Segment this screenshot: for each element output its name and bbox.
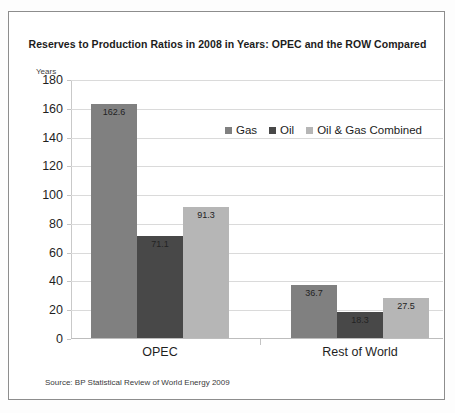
y-axis-tick-label: 0: [56, 332, 63, 346]
y-axis-tick-label: 100: [42, 188, 63, 202]
bar-oil-gas-combined-opec: 91.3: [183, 207, 229, 338]
y-axis-tick-label: 180: [42, 73, 63, 87]
bar-value-label: 36.7: [291, 288, 337, 298]
bar-value-label: 162.6: [91, 107, 137, 117]
legend-label: Oil: [280, 124, 294, 136]
y-axis-tick: [67, 253, 71, 254]
bar-value-label: 18.3: [337, 315, 383, 325]
legend-item-oil: Oil: [269, 124, 294, 136]
y-axis-tick-label: 160: [42, 102, 63, 116]
category-label-rest-of-world: Rest of World: [322, 345, 398, 359]
y-axis-tick: [67, 339, 71, 340]
y-axis-tick-label: 140: [42, 131, 63, 145]
y-axis-line: [71, 80, 72, 339]
bar-oil-gas-combined-rest-of-world: 27.5: [383, 298, 429, 338]
y-axis-tick: [67, 224, 71, 225]
bar-value-label: 27.5: [383, 301, 429, 311]
y-axis-tick-label: 80: [49, 217, 63, 231]
chart-title: Reserves to Production Ratios in 2008 in…: [9, 38, 446, 50]
chart-legend: GasOilOil & Gas Combined: [221, 122, 426, 138]
legend-label: Gas: [236, 124, 257, 136]
legend-item-gas: Gas: [225, 124, 257, 136]
y-axis-tick: [67, 166, 71, 167]
bar-value-label: 91.3: [183, 210, 229, 220]
category-axis-tick: [260, 339, 261, 345]
source-note: Source: BP Statistical Review of World E…: [45, 378, 230, 387]
y-axis-tick-label: 40: [49, 274, 63, 288]
bar-gas-rest-of-world: 36.7: [291, 285, 337, 338]
y-axis-tick: [67, 109, 71, 110]
x-axis-line: [71, 338, 443, 339]
y-axis-tick-label: 20: [49, 303, 63, 317]
y-axis-tick: [67, 80, 71, 81]
y-axis-tick-label: 60: [49, 246, 63, 260]
legend-label: Oil & Gas Combined: [317, 124, 422, 136]
bar-value-label: 71.1: [137, 239, 183, 249]
legend-item-oil-gas-combined: Oil & Gas Combined: [306, 124, 422, 136]
chart-frame: Reserves to Production Ratios in 2008 in…: [8, 11, 445, 400]
legend-swatch-icon: [269, 127, 276, 134]
y-axis-tick: [67, 138, 71, 139]
y-axis-tick: [67, 281, 71, 282]
gridline: [71, 80, 443, 81]
legend-swatch-icon: [225, 127, 232, 134]
bar-gas-opec: 162.6: [91, 104, 137, 338]
y-axis-tick: [67, 195, 71, 196]
legend-swatch-icon: [306, 127, 313, 134]
category-label-opec: OPEC: [142, 345, 177, 359]
y-axis-tick: [67, 310, 71, 311]
bar-oil-rest-of-world: 18.3: [337, 312, 383, 338]
plot-area: 180160140120100806040200162.671.191.336.…: [71, 80, 443, 339]
y-axis-tick-label: 120: [42, 159, 63, 173]
chart-screenshot: Reserves to Production Ratios in 2008 in…: [0, 0, 455, 413]
bar-oil-opec: 71.1: [137, 236, 183, 338]
